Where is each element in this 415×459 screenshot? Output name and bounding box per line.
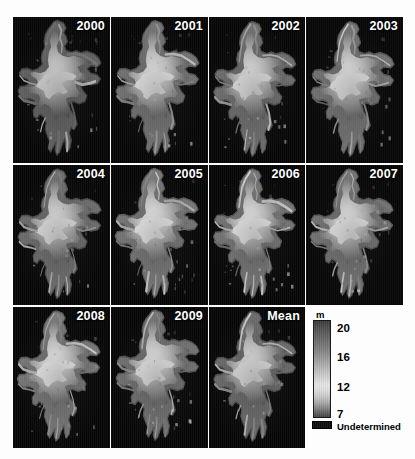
reservoir-depth-raster — [306, 165, 403, 305]
depth-colorbar — [313, 320, 331, 418]
panel-label: 2004 — [76, 168, 105, 181]
undetermined-label: Undetermined — [337, 422, 401, 432]
panel-label: 2001 — [174, 20, 203, 33]
reservoir-depth-raster — [13, 17, 110, 163]
map-panel-mean[interactable]: Mean — [209, 307, 305, 448]
undetermined-swatch-texture — [313, 422, 331, 428]
panel-label: 2009 — [174, 310, 203, 323]
reservoir-depth-raster — [209, 165, 305, 305]
panel-label: 2007 — [369, 168, 398, 181]
figure-map-grid: 2000200120022003200420052006200720082009… — [0, 0, 415, 459]
colorbar-tick-20: 20 — [337, 323, 350, 335]
map-panel-2004[interactable]: 2004 — [13, 165, 110, 305]
legend-unit-label: m — [316, 310, 324, 320]
map-panel-2008[interactable]: 2008 — [13, 307, 110, 448]
map-panel-2007[interactable]: 2007 — [306, 165, 403, 305]
map-panel-2003[interactable]: 2003 — [306, 17, 403, 163]
colorbar-tick-12: 12 — [337, 382, 350, 394]
colorbar-tick-16: 16 — [337, 352, 350, 364]
panel-label: 2005 — [174, 168, 203, 181]
reservoir-depth-raster — [111, 307, 208, 448]
reservoir-depth-raster — [306, 17, 403, 163]
panel-label: 2006 — [271, 168, 300, 181]
map-panel-2006[interactable]: 2006 — [209, 165, 305, 305]
colorbar-texture — [314, 321, 330, 417]
panel-label: 2002 — [271, 20, 300, 33]
map-panel-2005[interactable]: 2005 — [111, 165, 208, 305]
map-panel-2001[interactable]: 2001 — [111, 17, 208, 163]
panel-label: Mean — [267, 310, 300, 323]
panel-label: 2003 — [369, 20, 398, 33]
reservoir-depth-raster — [13, 165, 110, 305]
map-panel-2002[interactable]: 2002 — [209, 17, 305, 163]
reservoir-depth-raster — [209, 307, 305, 448]
reservoir-depth-raster — [13, 307, 110, 448]
reservoir-depth-raster — [111, 165, 208, 305]
panel-label: 2000 — [76, 20, 105, 33]
map-panel-2000[interactable]: 2000 — [13, 17, 110, 163]
colorbar-tick-7: 7 — [337, 409, 343, 421]
reservoir-depth-raster — [209, 17, 305, 163]
reservoir-depth-raster — [111, 17, 208, 163]
panel-label: 2008 — [76, 310, 105, 323]
undetermined-swatch — [312, 421, 332, 429]
map-panel-2009[interactable]: 2009 — [111, 307, 208, 448]
